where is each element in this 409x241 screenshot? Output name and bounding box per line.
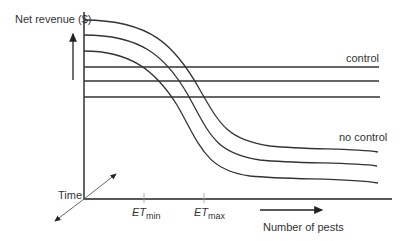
- et-max-subscript: max: [208, 211, 225, 221]
- control-label: control: [346, 53, 379, 64]
- et-min-subscript: min: [146, 211, 161, 221]
- time-label: Time: [58, 190, 82, 201]
- no-control-curve-1: [84, 20, 378, 152]
- no-control-curve-2: [84, 35, 377, 166]
- no-control-label: no control: [339, 132, 387, 143]
- time-axis-arrow-back-icon: [55, 199, 84, 221]
- time-axis-arrow-icon: [84, 174, 116, 199]
- diagram-canvas: [0, 0, 409, 241]
- y-axis-label: Net revenue ($): [15, 14, 91, 25]
- et-min-name: ET: [132, 206, 146, 218]
- et-min-label: ETmin: [132, 207, 161, 221]
- x-axis-label: Number of pests: [263, 222, 344, 233]
- et-max-name: ET: [194, 206, 208, 218]
- et-max-label: ETmax: [194, 207, 225, 221]
